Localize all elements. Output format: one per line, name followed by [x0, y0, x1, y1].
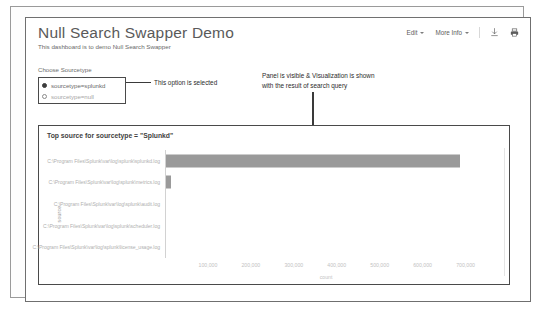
visualization-panel: Top source for sourcetype = "Splunkd" so… — [38, 125, 510, 285]
sourcetype-radio-group[interactable]: sourcetype=splunkd sourcetype=null — [38, 77, 126, 104]
y-axis-tick-label: C:\Program Files\Splunk\var\log\splunk\s… — [47, 158, 160, 164]
edit-button[interactable]: Edit — [406, 27, 426, 38]
download-icon[interactable] — [489, 27, 500, 38]
y-axis-tick-labels: C:\Program Files\Splunk\var\log\splunk\s… — [59, 150, 163, 258]
more-info-button-label: More Info — [435, 29, 462, 36]
scanned-page-frame: Null Search Swapper Demo This dashboard … — [10, 6, 524, 298]
bar[interactable] — [166, 154, 460, 167]
header-divider — [479, 27, 480, 38]
annotation-text-line-2: with the result of search query — [262, 81, 437, 91]
header-controls: Edit More Info — [406, 27, 520, 38]
plot-wrapper: C:\Program Files\Splunk\var\log\splunk\s… — [59, 150, 501, 278]
panel-scroll-edge — [504, 148, 505, 276]
x-axis-tick-label: 700,000 — [456, 262, 475, 268]
plot-area — [165, 150, 487, 258]
annotation-option-selected: This option is selected — [126, 79, 217, 86]
edit-button-label: Edit — [407, 29, 418, 36]
radio-option-sourcetype-splunkd[interactable]: sourcetype=splunkd — [42, 80, 122, 90]
annotation-panel-visible: Panel is visible & Visualization is show… — [262, 71, 437, 91]
x-axis-tick-label: 300,000 — [284, 262, 303, 268]
bar-chart: source C:\Program Files\Splunk\var\log\s… — [47, 150, 501, 278]
annotation-text-line-1: Panel is visible & Visualization is show… — [262, 71, 437, 81]
page-subtitle: This dashboard is to demo Null Search Sw… — [38, 43, 171, 50]
radio-unselected-icon — [42, 94, 47, 99]
dashboard-container: Null Search Swapper Demo This dashboard … — [25, 17, 531, 302]
y-axis-tick-label: C:\Program Files\Splunk\var\log\splunk\m… — [48, 179, 160, 185]
radio-option-sourcetype-null[interactable]: sourcetype=null — [42, 91, 122, 101]
annotation-leader-line — [126, 82, 151, 84]
radio-selected-icon — [42, 83, 47, 88]
x-axis-tick-label: 200,000 — [241, 262, 260, 268]
page-title: Null Search Swapper Demo — [38, 24, 234, 42]
panel-title: Top source for sourcetype = "Splunkd" — [47, 132, 173, 139]
x-axis-tick-label: 400,000 — [327, 262, 346, 268]
x-axis-tick-label: 100,000 — [199, 262, 218, 268]
x-axis-tick-label: 600,000 — [413, 262, 432, 268]
x-axis-tick-label: 500,000 — [370, 262, 389, 268]
radio-option-label: sourcetype=splunkd — [51, 82, 105, 89]
x-axis: count 100,000200,000300,000400,000500,00… — [165, 258, 487, 284]
print-icon[interactable] — [509, 27, 520, 38]
chevron-down-icon — [465, 32, 469, 34]
annotation-text: This option is selected — [154, 79, 217, 86]
x-axis-title: count — [320, 274, 333, 280]
y-axis-tick-label: C:\Program Files\Splunk\var\log\splunk\s… — [43, 223, 160, 229]
y-axis-tick-label: C:\Program Files\Splunk\var\log\splunk\l… — [33, 244, 160, 250]
y-axis-tick-label: C:\Program Files\Splunk\var\log\splunk\a… — [54, 201, 160, 207]
radio-option-label: sourcetype=null — [51, 93, 94, 100]
annotation-pointer-line — [312, 92, 314, 126]
bar[interactable] — [166, 176, 171, 189]
more-info-button[interactable]: More Info — [434, 27, 470, 38]
dashboard-header: Null Search Swapper Demo This dashboard … — [26, 18, 530, 60]
chevron-down-icon — [420, 32, 424, 34]
